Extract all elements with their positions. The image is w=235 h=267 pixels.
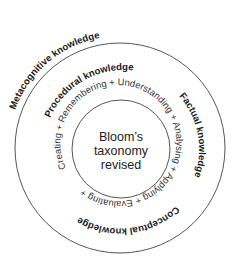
- blooms-taxonomy-diagram: Metacognitive knowledge Procedural knowl…: [0, 0, 235, 267]
- conceptual-knowledge-label: Conceptual knowledge: [75, 204, 182, 237]
- center-title-line-1: Bloom’s: [99, 130, 143, 144]
- center-title-line-2: taxonomy: [94, 144, 149, 158]
- center-title-line-3: revised: [101, 158, 141, 172]
